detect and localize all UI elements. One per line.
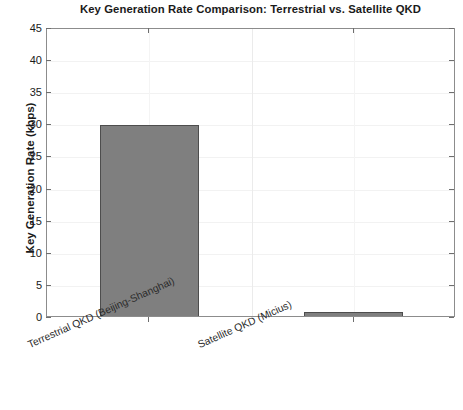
figure-canvas: Key Generation Rate Comparison: Terrestr… [0, 0, 463, 410]
gridline-horizontal [47, 61, 454, 62]
y-axis-tick-label: 35 [2, 86, 42, 98]
y-axis-tick-mark [46, 285, 51, 286]
y-axis-tick-label: 40 [2, 54, 42, 66]
y-axis-tick-label: 45 [2, 22, 42, 34]
gridline-vertical [252, 29, 253, 316]
y-axis-tick-mark [46, 124, 51, 125]
y-axis-tick-label: 0 [2, 311, 42, 323]
y-axis-tick-label: 5 [2, 279, 42, 291]
y-axis-tick-mark-right [449, 253, 454, 254]
chart-title: Key Generation Rate Comparison: Terrestr… [46, 3, 455, 15]
y-axis-tick-mark [46, 317, 51, 318]
gridline-vertical-minor [354, 29, 355, 316]
y-axis-tick-mark-right [449, 221, 454, 222]
y-axis-tick-label: 10 [2, 247, 42, 259]
x-axis-tick-mark-top [148, 28, 149, 33]
y-axis-tick-mark [46, 156, 51, 157]
plot-area [46, 28, 455, 317]
gridline-horizontal [47, 93, 454, 94]
x-axis-tick-mark [353, 317, 354, 322]
y-axis-tick-mark [46, 221, 51, 222]
y-axis-tick-label: 25 [2, 150, 42, 162]
y-axis-tick-mark-right [449, 124, 454, 125]
x-axis-tick-mark-top [353, 28, 354, 33]
y-axis-tick-mark-right [449, 317, 454, 318]
y-axis-tick-mark [46, 92, 51, 93]
y-axis-tick-mark [46, 253, 51, 254]
y-axis-tick-mark [46, 60, 51, 61]
y-axis-tick-mark [46, 189, 51, 190]
y-axis-label: Key Generation Rate (kbps) [24, 78, 36, 278]
y-axis-tick-mark-right [449, 189, 454, 190]
x-axis-tick-mark [148, 317, 149, 322]
y-axis-tick-mark-right [449, 92, 454, 93]
y-axis-tick-mark-right [449, 60, 454, 61]
y-axis-tick-mark-right [449, 28, 454, 29]
y-axis-tick-mark-right [449, 156, 454, 157]
y-axis-tick-mark-right [449, 285, 454, 286]
y-axis-tick-label: 15 [2, 215, 42, 227]
y-axis-tick-mark [46, 28, 51, 29]
y-axis-tick-label: 20 [2, 183, 42, 195]
y-axis-tick-label: 30 [2, 118, 42, 130]
